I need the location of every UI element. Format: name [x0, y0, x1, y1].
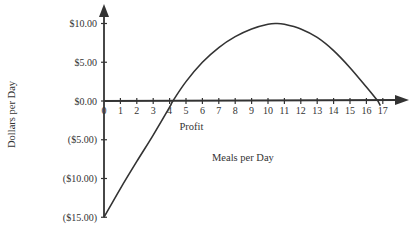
- x-tick-label: 16: [361, 105, 371, 116]
- x-tick-label: 17: [378, 105, 388, 116]
- x-axis: 01234567891011121314151617: [102, 95, 410, 116]
- x-axis-arrow-icon: [395, 95, 409, 105]
- profit-annotation: Profit: [179, 121, 203, 132]
- x-tick-label: 1: [118, 105, 123, 116]
- x-tick-label: 12: [296, 105, 306, 116]
- profit-curve: [104, 23, 380, 217]
- x-tick-label: 9: [249, 105, 254, 116]
- x-tick-label: 14: [329, 105, 339, 116]
- y-tick-label: ($15.00): [63, 212, 97, 224]
- y-tick-label: $10.00: [70, 18, 98, 29]
- y-axis-title: Dollars per Day: [6, 80, 17, 148]
- x-tick-label: 3: [151, 105, 156, 116]
- x-tick-label: 11: [280, 105, 290, 116]
- x-tick-label: 6: [200, 105, 205, 116]
- y-tick-label: ($10.00): [63, 173, 97, 185]
- x-tick-label: 0: [102, 105, 107, 116]
- y-tick-label: ($5.00): [68, 134, 97, 146]
- y-axis-arrow-icon: [99, 4, 109, 17]
- x-tick-label: 10: [263, 105, 273, 116]
- x-tick-label: 8: [233, 105, 238, 116]
- x-tick-label: 7: [216, 105, 221, 116]
- x-tick-label: 15: [345, 105, 355, 116]
- x-tick-label: 2: [134, 105, 139, 116]
- y-tick-label: $5.00: [75, 57, 98, 68]
- y-tick-label: $0.00: [75, 96, 98, 107]
- x-tick-label: 5: [184, 105, 189, 116]
- x-axis-title: Meals per Day: [212, 152, 275, 163]
- x-tick-label: 13: [312, 105, 322, 116]
- profit-chart: $10.00$5.00$0.00($5.00)($10.00)($15.00) …: [0, 0, 420, 244]
